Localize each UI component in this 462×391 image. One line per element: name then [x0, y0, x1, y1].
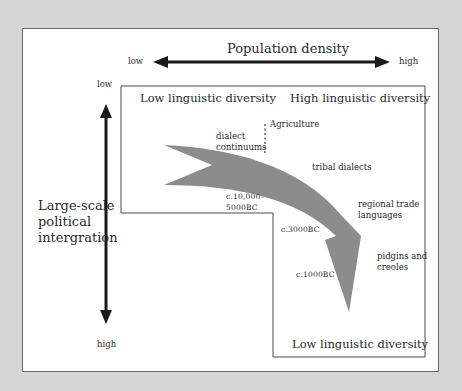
stage-tribal-dialects: tribal dialects: [312, 163, 372, 173]
region-top-right-label: High linguistic diversity: [290, 92, 430, 105]
population-density-low-label: low: [128, 57, 143, 67]
political-integration-high-label: high: [97, 340, 116, 350]
population-density-title: Population density: [227, 42, 349, 57]
date-label-line: 5000BC: [226, 202, 264, 213]
agriculture-label: Agriculture: [270, 120, 319, 130]
political-integration-title-line-3: intergration: [38, 230, 118, 246]
stage-label-line: pidgins and: [377, 251, 427, 262]
political-integration-title: Large-scale political intergration: [38, 198, 118, 246]
stage-label-line: dialect: [216, 131, 266, 142]
region-bottom-right-label: Low linguistic diversity: [292, 338, 428, 351]
population-density-high-label: high: [399, 57, 418, 67]
political-integration-low-label: low: [97, 80, 112, 90]
date-label-3000bc: c.3000BC: [281, 226, 320, 235]
stage-pidgins-and-creoles: pidgins and creoles: [377, 251, 427, 273]
stage-dialect-continuums: dialect continuums: [216, 131, 266, 153]
political-integration-title-line-1: Large-scale: [38, 198, 118, 214]
stage-regional-trade-languages: regional trade languages: [358, 199, 419, 221]
date-label-line: c.10,000–: [226, 191, 264, 202]
region-top-left-label: Low linguistic diversity: [140, 92, 276, 105]
stage-label-line: creoles: [377, 262, 427, 273]
stage-label-line: regional trade: [358, 199, 419, 210]
date-label-10000-5000bc: c.10,000– 5000BC: [226, 191, 264, 213]
political-integration-title-line-2: political: [38, 214, 118, 230]
date-label-1000bc: c.1000BC: [296, 271, 335, 280]
stage-label-line: languages: [358, 210, 419, 221]
population-density-arrow: [153, 56, 390, 68]
stage-label-line: continuums: [216, 142, 266, 153]
